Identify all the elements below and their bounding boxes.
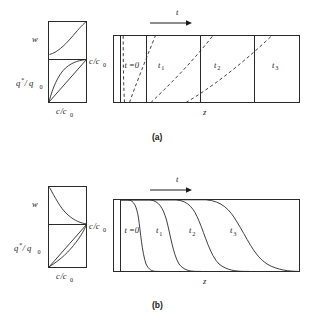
- panel-b-front-2: [121, 200, 249, 272]
- panel-a-front-3: [186, 36, 272, 103]
- panel-b-front-0: [121, 200, 160, 272]
- panel-b-side-xlabel-sub: 0: [70, 276, 73, 283]
- panel-b-diagonal: [49, 225, 87, 268]
- panel-b-time-label-0: t =0: [125, 225, 140, 235]
- panel-b-main-ylabel: c /c 0: [89, 221, 106, 233]
- panel-b-front-3: [121, 200, 298, 272]
- panel-a-time-label-2-sub: 2: [217, 64, 220, 71]
- panel-b-main-ylabel-c: c: [89, 221, 93, 231]
- panel-b-side-xlabel-c: c: [56, 271, 60, 281]
- panel-b-time-label-1: t 1: [156, 225, 162, 237]
- panel-b-time-label-3-sub: 3: [233, 230, 236, 237]
- panel-a-time-label-1: t 1: [158, 60, 164, 72]
- panel-b-q-label-denom: / q: [22, 243, 32, 253]
- panel-b: w q * / q 0 c /c 0: [14, 174, 300, 310]
- panel-b-time-label-0-text: t =0: [125, 225, 140, 235]
- panel-a-main-ylabel: c /c 0: [89, 56, 106, 68]
- panel-b-main-ylabel-sub: 0: [103, 226, 106, 233]
- panel-a-time-label-2: t 2: [214, 60, 220, 72]
- panel-b-q-label-sub: 0: [38, 248, 41, 255]
- panel-a-w-label: w: [32, 34, 38, 44]
- panel-a-time-label-1-sub: 1: [161, 64, 164, 71]
- panel-a-main-plot: t =0 t 1 t 2 t 3 z: [114, 36, 300, 118]
- panel-b-main-ylabel-slash: /c: [93, 221, 100, 231]
- panel-b-time-arrow: t: [150, 174, 192, 193]
- panel-a-side-xlabel-c: c: [56, 106, 60, 116]
- panel-b-main-plot: t =0 t 1 t 2 t 3 z: [114, 200, 300, 287]
- panel-b-main-box: [114, 200, 300, 272]
- panel-b-time-label-3: t 3: [230, 225, 236, 237]
- panel-b-xlabel: z: [202, 276, 207, 286]
- panel-a-main-ylabel-sub: 0: [103, 61, 106, 68]
- panel-b-arrow-head: [186, 187, 192, 193]
- panel-b-time-label-2: t 2: [189, 225, 195, 237]
- panel-b-arrow-label: t: [176, 174, 179, 184]
- figure-svg: w q * / q 0 c /c 0: [0, 0, 314, 321]
- panel-b-side-plot: w q * / q 0 c /c 0: [14, 187, 87, 283]
- panel-a-main-ylabel-c: c: [89, 56, 93, 66]
- panel-a-side-xlabel-sub: 0: [70, 111, 73, 118]
- panel-a-time-label-3-sub: 3: [275, 64, 278, 71]
- panel-b-time-label-1-sub: 1: [159, 230, 162, 237]
- panel-b-w-box: [49, 187, 87, 225]
- panel-a-q-label-sub: 0: [40, 83, 43, 90]
- panel-a: w q * / q 0 c /c 0: [16, 7, 300, 142]
- panel-a-xlabel: z: [202, 107, 207, 117]
- panel-a-side-plot: w q * / q 0 c /c 0: [16, 22, 87, 118]
- panel-b-q-label: q * / q 0: [14, 241, 41, 255]
- figure-root: w q * / q 0 c /c 0: [0, 0, 314, 321]
- panel-a-arrow-label: t: [176, 7, 179, 17]
- panel-b-time-label-2-sub: 2: [192, 230, 195, 237]
- panel-a-tag: (a): [152, 132, 163, 142]
- panel-a-time-label-0-text: t =0: [125, 60, 140, 70]
- panel-a-q-label: q * / q 0: [16, 76, 43, 90]
- panel-b-side-xlabel: c /c 0: [56, 271, 73, 283]
- panel-b-w-curve: [50, 188, 87, 224]
- panel-b-side-xlabel-slash: /c: [60, 271, 67, 281]
- panel-b-w-label: w: [32, 199, 38, 209]
- panel-a-time-label-3: t 3: [272, 60, 278, 72]
- panel-a-time-arrow: t: [150, 7, 192, 26]
- panel-a-side-xlabel-slash: /c: [60, 106, 67, 116]
- panel-a-q-label-denom: / q: [24, 78, 34, 88]
- panel-a-main-ylabel-slash: /c: [93, 56, 100, 66]
- panel-b-tag: (b): [152, 300, 163, 310]
- panel-a-arrow-head: [186, 20, 192, 26]
- panel-a-side-xlabel: c /c 0: [56, 106, 73, 118]
- panel-a-time-label-0: t =0: [125, 60, 140, 70]
- panel-a-w-curve: [50, 22, 87, 55]
